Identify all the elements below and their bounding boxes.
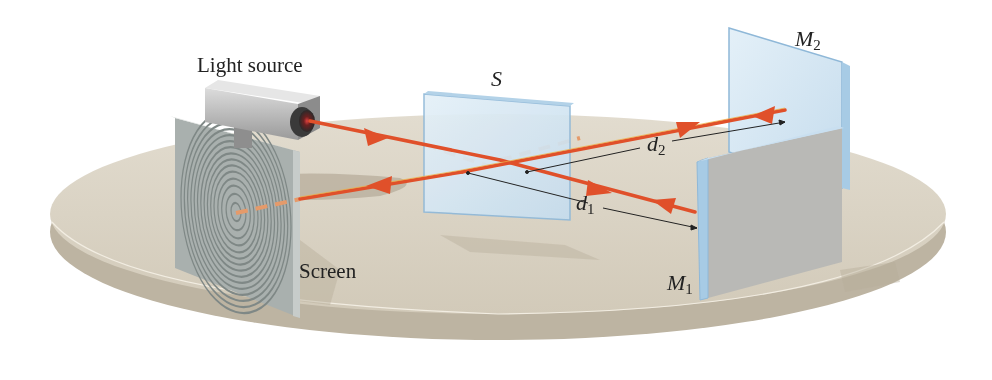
d2-label-sub: 2 xyxy=(658,142,666,158)
screen-label: Screen xyxy=(299,259,356,284)
diagram-canvas xyxy=(0,0,992,380)
interferometer-diagram: Light source Screen S M2 M1 d2 d1 xyxy=(0,0,992,380)
mirror-2-label-sub: 2 xyxy=(813,37,821,53)
d1-label: d1 xyxy=(576,190,595,218)
mirror-1-label-sub: 1 xyxy=(685,281,693,297)
d1-label-sub: 1 xyxy=(587,201,595,217)
mirror-2-label-base: M xyxy=(795,26,813,51)
mirror-1-label-base: M xyxy=(667,270,685,295)
d2-label-base: d xyxy=(647,131,658,156)
light-source-label: Light source xyxy=(197,53,303,78)
mirror-1-label: M1 xyxy=(667,270,693,298)
splitter-label: S xyxy=(491,66,502,92)
mirror-2-label: M2 xyxy=(795,26,821,54)
d1-label-base: d xyxy=(576,190,587,215)
d2-label: d2 xyxy=(647,131,666,159)
